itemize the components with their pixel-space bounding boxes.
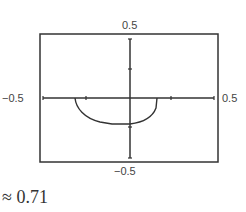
plot-area — [0, 0, 246, 212]
approximation-result: ≈ 0.71 — [2, 188, 48, 206]
semicircle-curve — [75, 98, 157, 124]
